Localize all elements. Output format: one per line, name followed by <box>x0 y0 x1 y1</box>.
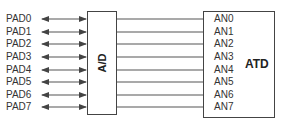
pad2-label: PAD2 <box>6 39 31 49</box>
pad3-label: PAD3 <box>6 52 31 62</box>
an7-label: AN7 <box>214 102 233 112</box>
an3-label: AN3 <box>214 52 233 62</box>
an2-label: AN2 <box>214 39 233 49</box>
pad4-label: PAD4 <box>6 65 31 75</box>
an4-label: AN4 <box>214 65 233 75</box>
bidirectional-arrows <box>42 19 86 107</box>
an6-label: AN6 <box>214 90 233 100</box>
pad0-label: PAD0 <box>6 14 31 24</box>
an1-label: AN1 <box>214 27 233 37</box>
pad1-label: PAD1 <box>6 27 31 37</box>
pad6-label: PAD6 <box>6 90 31 100</box>
channel-lines <box>117 19 203 107</box>
pad7-label: PAD7 <box>6 102 31 112</box>
an5-label: AN5 <box>214 77 233 87</box>
ad-atd-block-diagram: PAD0 PAD1 PAD2 PAD3 PAD4 PAD5 PAD6 PAD7 … <box>0 0 288 124</box>
an0-label: AN0 <box>214 14 233 24</box>
pad5-label: PAD5 <box>6 77 31 87</box>
ad-block-label: A/D <box>96 54 108 73</box>
atd-block-label: ATD <box>245 57 269 71</box>
